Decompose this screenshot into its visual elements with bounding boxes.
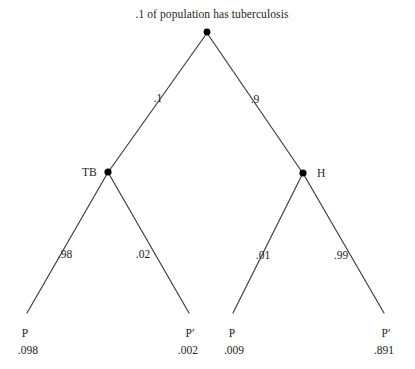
edge-h-to-leaf3 <box>233 175 302 313</box>
leaf-value-4: .891 <box>374 345 394 357</box>
edge-label-root-tb: .1 <box>154 93 163 105</box>
edge-h-to-leaf4 <box>304 175 384 313</box>
node-tb-dot <box>104 168 111 175</box>
tree-edges-svg <box>0 0 415 369</box>
leaf-label-3: P <box>229 328 235 340</box>
node-root-dot <box>204 29 211 36</box>
leaf-value-1: .098 <box>18 345 38 357</box>
node-h-dot <box>299 169 306 176</box>
edge-label-root-h: .9 <box>251 94 260 106</box>
leaf-label-1: P <box>22 328 28 340</box>
leaf-value-2: .002 <box>178 345 198 357</box>
edge-label-tb-leaf2: .02 <box>136 249 150 261</box>
diagram-title: .1 of population has tuberculosis <box>135 9 288 21</box>
leaf-label-2: P′ <box>186 328 195 340</box>
leaf-value-3: .009 <box>224 345 244 357</box>
edge-label-tb-leaf1: .98 <box>58 249 72 261</box>
node-label-h: H <box>317 168 325 180</box>
edge-label-h-leaf3: .01 <box>256 250 270 262</box>
edge-tb-to-leaf1 <box>27 174 107 313</box>
node-label-tb: TB <box>82 167 97 179</box>
leaf-label-4: P′ <box>382 328 391 340</box>
edge-tb-to-leaf2 <box>109 174 189 313</box>
edge-label-h-leaf4: .99 <box>334 250 348 262</box>
probability-tree-diagram: .1 of population has tuberculosis .1 .9 … <box>0 0 415 369</box>
